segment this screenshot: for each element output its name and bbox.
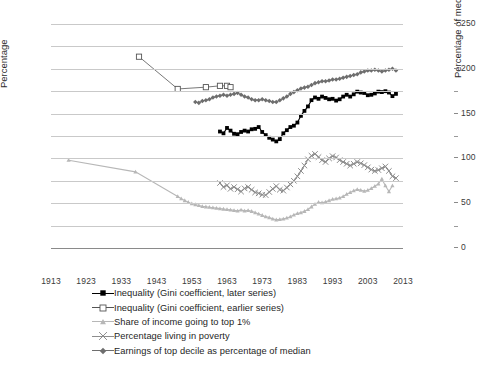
data-point-marker	[217, 83, 222, 88]
legend-marker-icon	[92, 345, 114, 357]
data-point-marker	[348, 95, 352, 99]
y-axis-right-tick-label: 200	[461, 63, 480, 73]
gridline	[51, 181, 403, 182]
data-point-marker	[348, 74, 353, 79]
minor-tick-mark	[454, 46, 458, 47]
legend-glyph-filled-diamond-icon	[97, 345, 109, 357]
plot-area: 05101520253035404550 050100150200250 191…	[51, 24, 403, 248]
series-line	[139, 57, 231, 89]
data-point-marker	[193, 100, 198, 105]
legend-item[interactable]: Earnings of top decile as percentage of …	[92, 344, 392, 358]
gridline	[51, 136, 403, 137]
data-point-marker	[320, 95, 324, 99]
chart-legend: Inequality (Gini coefficient, later seri…	[92, 286, 392, 358]
data-point-marker	[327, 78, 332, 83]
data-point-marker	[100, 290, 105, 295]
legend-marker-icon	[92, 330, 114, 342]
data-point-marker	[260, 97, 265, 102]
data-point-marker	[295, 174, 301, 180]
legend-label: Inequality (Gini coefficient, earlier se…	[114, 303, 284, 313]
data-point-marker	[246, 130, 250, 134]
minor-tick-mark	[454, 136, 458, 137]
data-point-marker	[298, 168, 304, 174]
legend-item[interactable]: Percentage living in poverty	[92, 329, 392, 343]
data-point-marker	[303, 109, 307, 113]
data-point-marker	[253, 127, 257, 131]
data-point-marker	[232, 92, 237, 97]
legend-marker-icon	[92, 287, 114, 299]
series-filled-triangle	[67, 158, 395, 221]
legend-label: Inequality (Gini coefficient, later seri…	[114, 288, 276, 298]
data-point-marker	[310, 98, 314, 102]
data-point-marker	[355, 187, 359, 191]
data-point-marker	[225, 126, 229, 130]
data-point-marker	[100, 305, 106, 311]
x-axis-tick-label: 1993	[313, 276, 353, 286]
data-point-marker	[228, 85, 233, 90]
tick-mark	[454, 113, 458, 114]
x-axis-tick-label: 1923	[66, 276, 106, 286]
legend-item[interactable]: Share of income going to top 1%	[92, 315, 392, 329]
legend-label: Percentage living in poverty	[114, 331, 230, 341]
data-point-marker	[386, 168, 392, 174]
data-point-marker	[239, 208, 243, 212]
gridline	[51, 248, 403, 249]
x-axis-tick-label: 1933	[101, 276, 141, 286]
data-point-marker	[292, 124, 296, 128]
data-point-marker	[100, 319, 106, 324]
data-point-marker	[345, 93, 349, 97]
data-point-marker	[249, 187, 255, 193]
tick-mark	[454, 247, 458, 248]
data-point-marker	[243, 129, 247, 133]
data-point-marker	[366, 93, 370, 97]
data-point-marker	[362, 69, 367, 74]
legend-item[interactable]: Inequality (Gini coefficient, later seri…	[92, 286, 392, 300]
x-axis-tick-label: 2003	[348, 276, 388, 286]
x-axis-tick-label: 1983	[277, 276, 317, 286]
tick-mark	[454, 202, 458, 203]
data-point-marker	[99, 332, 107, 340]
data-point-marker	[302, 163, 308, 169]
gridline	[51, 158, 403, 159]
gridline	[51, 46, 403, 47]
legend-marker-icon	[92, 316, 114, 328]
minor-tick-mark	[454, 226, 458, 227]
data-point-marker	[352, 92, 356, 96]
x-axis-tick-label: 1953	[172, 276, 212, 286]
legend-glyph-open-square-icon	[97, 302, 109, 314]
data-point-marker	[327, 97, 331, 101]
data-point-marker	[317, 97, 321, 101]
data-point-marker	[351, 73, 356, 78]
x-axis-tick-label: 1913	[31, 276, 71, 286]
legend-item[interactable]: Inequality (Gini coefficient, earlier se…	[92, 300, 392, 314]
data-point-marker	[239, 130, 243, 134]
data-point-marker	[218, 93, 223, 98]
data-point-marker	[256, 98, 261, 103]
data-point-marker	[390, 184, 394, 188]
data-point-marker	[391, 94, 395, 98]
tick-mark	[454, 23, 458, 24]
x-axis-tick-label: 1943	[137, 276, 177, 286]
data-point-marker	[334, 99, 338, 103]
data-point-marker	[316, 80, 321, 85]
data-point-marker	[341, 75, 346, 80]
y-axis-right-tick-label: 150	[461, 108, 480, 118]
data-point-marker	[281, 131, 285, 135]
data-point-marker	[274, 139, 278, 143]
data-point-marker	[380, 69, 385, 74]
data-point-marker	[228, 93, 233, 98]
minor-tick-mark	[454, 181, 458, 182]
y-axis-right-tick-label: 250	[461, 18, 480, 28]
gridline	[51, 226, 403, 227]
data-point-marker	[214, 94, 219, 99]
data-point-marker	[285, 128, 289, 132]
legend-label: Earnings of top decile as percentage of …	[114, 346, 311, 356]
data-point-marker	[218, 130, 222, 134]
series-open-square	[136, 54, 233, 91]
legend-glyph-x-cross-icon	[97, 330, 109, 342]
data-point-marker	[203, 85, 208, 90]
tick-mark	[454, 157, 458, 158]
data-point-marker	[250, 127, 254, 131]
data-point-marker	[271, 138, 275, 142]
data-point-marker	[337, 76, 342, 81]
